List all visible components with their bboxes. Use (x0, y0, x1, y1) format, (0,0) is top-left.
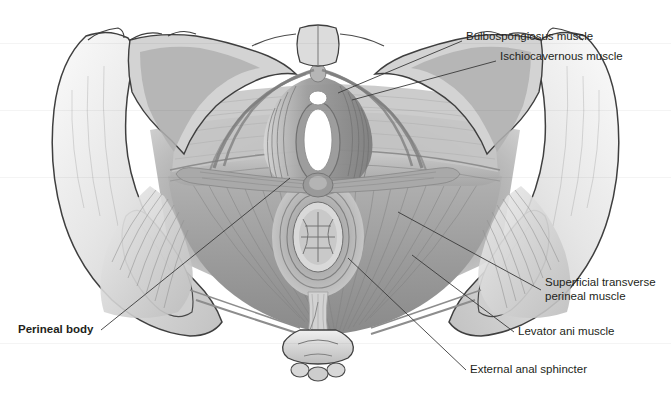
label-ischiocavernous: Ischiocavernous muscle (500, 50, 623, 64)
perineal-body (303, 173, 333, 197)
label-superficial-transverse-perineal: Superficial transverse perineal muscle (545, 276, 656, 303)
anus (299, 209, 337, 265)
label-levator-ani: Levator ani muscle (518, 325, 615, 339)
label-superficial-transverse-perineal-line1: Superficial transverse (545, 276, 656, 290)
illustration-canvas: Bulbospongiosus muscle Ischiocavernous m… (0, 0, 671, 396)
label-superficial-transverse-perineal-line2: perineal muscle (545, 290, 656, 304)
label-perineal-body: Perineal body (18, 323, 93, 337)
label-bulbospongiosus: Bulbospongiosus muscle (466, 30, 593, 44)
label-external-anal-sphincter: External anal sphincter (470, 363, 587, 377)
